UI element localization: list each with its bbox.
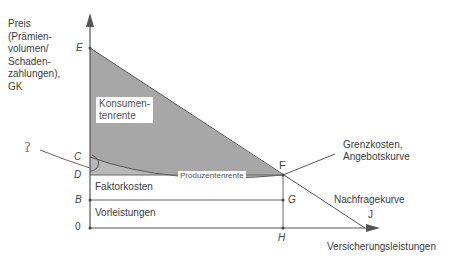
handwritten-pointer bbox=[40, 150, 90, 168]
y-label-line: Preis bbox=[8, 18, 78, 31]
y-label-line: zahlungen), bbox=[8, 68, 78, 81]
point-H-dot bbox=[282, 227, 285, 230]
handwritten-mark: ʔ bbox=[24, 140, 31, 155]
point-J-label: J bbox=[368, 209, 373, 220]
producer-surplus-label: Produzentenrente bbox=[178, 171, 246, 180]
point-E-dot bbox=[89, 47, 92, 50]
point-E-label: E bbox=[76, 42, 83, 53]
consumer-surplus-line: tenrente bbox=[99, 110, 150, 122]
intermediate-inputs-label: Vorleistungen bbox=[95, 207, 156, 219]
x-axis-arrow-icon bbox=[366, 224, 380, 232]
point-C-label: C bbox=[74, 151, 81, 162]
y-axis-arrow-icon bbox=[86, 13, 94, 27]
x-axis-label: Versicherungsleistungen bbox=[327, 241, 436, 253]
supply-label-line: Angebotskurve bbox=[343, 151, 410, 163]
y-label-line: (Prämien- bbox=[8, 31, 78, 44]
y-axis-label: Preis (Prämien- volumen/ Schaden- zahlun… bbox=[8, 18, 78, 93]
y-label-line: volumen/ bbox=[8, 43, 78, 56]
consumer-surplus-line: Konsumen- bbox=[99, 98, 150, 110]
point-G-label: G bbox=[288, 194, 296, 205]
supply-label-line: Grenzkosten, bbox=[343, 139, 410, 151]
point-F-label: F bbox=[279, 159, 286, 171]
point-G-dot bbox=[282, 199, 285, 202]
y-label-line: GK bbox=[8, 81, 78, 94]
point-F-dot bbox=[282, 174, 285, 177]
supply-curve-label: Grenzkosten, Angebotskurve bbox=[343, 139, 410, 163]
point-B-label: B bbox=[75, 194, 82, 205]
point-B-dot bbox=[89, 199, 92, 202]
point-O-dot bbox=[89, 227, 92, 230]
point-H-label: H bbox=[278, 232, 285, 243]
demand-curve-label: Nachfragekurve bbox=[334, 194, 405, 206]
point-D-label: D bbox=[74, 169, 81, 180]
point-origin-label: 0 bbox=[75, 221, 81, 232]
y-label-line: Schaden- bbox=[8, 56, 78, 69]
consumer-surplus-label: Konsumen- tenrente bbox=[96, 97, 153, 123]
factor-costs-label: Faktorkosten bbox=[95, 181, 153, 193]
